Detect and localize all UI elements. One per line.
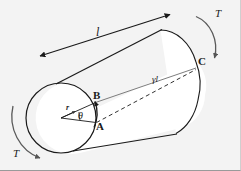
torsion-figure: l r θ γl T T A B C: [0, 0, 241, 171]
torsion-diagram-svg: [0, 0, 241, 171]
